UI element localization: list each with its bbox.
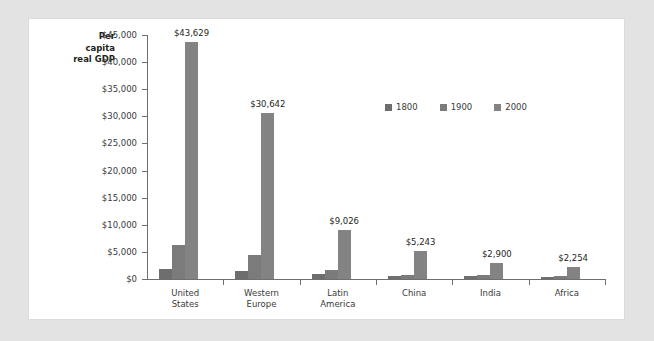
legend-swatch-1900	[440, 104, 447, 111]
x-tick-mark	[223, 279, 224, 285]
bar-group: $9,026LatinAmerica	[300, 35, 376, 279]
y-tick-label: $5,000	[75, 247, 137, 257]
bar-1800[interactable]	[464, 276, 477, 279]
y-tick-label: $45,000	[75, 30, 137, 40]
bar-1800[interactable]	[159, 269, 172, 279]
y-tick-label: $10,000	[75, 220, 137, 230]
y-tick-label: $0	[75, 274, 137, 284]
bar-1900[interactable]	[325, 270, 338, 279]
bar-value-label: $43,629	[174, 28, 209, 38]
x-tick-mark	[300, 279, 301, 285]
bar-1900[interactable]	[401, 275, 414, 279]
bar-value-label: $2,900	[482, 249, 512, 259]
bar-2000[interactable]	[261, 113, 274, 279]
y-tick-label: $20,000	[75, 166, 137, 176]
bar-1800[interactable]	[541, 277, 554, 279]
bar-group: $2,254Africa	[529, 35, 605, 279]
bar-group: $5,243China	[376, 35, 452, 279]
y-tick-label: $30,000	[75, 111, 137, 121]
legend-label-1900: 1900	[451, 102, 473, 112]
legend-label-2000: 2000	[505, 102, 527, 112]
bar-group: $30,642WesternEurope	[223, 35, 299, 279]
x-axis-category-label: Africa	[519, 288, 615, 299]
chart-panel: Per capita real GDP $45,000$40,000$35,00…	[28, 18, 625, 320]
bar-2000[interactable]	[567, 267, 580, 279]
x-axis-category-line: Africa	[519, 288, 615, 299]
bar-1900[interactable]	[554, 276, 567, 279]
x-tick-mark	[529, 279, 530, 285]
bar-value-label: $9,026	[329, 216, 359, 226]
x-tick-mark	[376, 279, 377, 285]
bar-1800[interactable]	[235, 271, 248, 279]
legend-item-2000[interactable]: 2000	[494, 102, 527, 112]
legend-item-1800[interactable]: 1800	[385, 102, 418, 112]
y-tick-label: $40,000	[75, 57, 137, 67]
bar-1900[interactable]	[248, 255, 261, 279]
y-tick-label: $15,000	[75, 193, 137, 203]
legend-item-1900[interactable]: 1900	[440, 102, 473, 112]
bar-1900[interactable]	[172, 245, 185, 279]
x-axis-category-line: America	[290, 299, 386, 310]
plot-area: $45,000$40,000$35,000$30,000$25,000$20,0…	[147, 35, 605, 279]
y-tick-mark	[142, 279, 147, 280]
bar-value-label: $30,642	[250, 99, 285, 109]
legend-label-1800: 1800	[396, 102, 418, 112]
bar-value-label: $2,254	[558, 253, 588, 263]
x-tick-mark	[605, 279, 606, 285]
legend-swatch-1800	[385, 104, 392, 111]
legend-swatch-2000	[494, 104, 501, 111]
bar-group: $43,629UnitedStates	[147, 35, 223, 279]
bar-2000[interactable]	[185, 42, 198, 279]
bar-1800[interactable]	[312, 274, 325, 279]
bar-2000[interactable]	[338, 230, 351, 279]
bar-value-label: $5,243	[406, 237, 436, 247]
bar-2000[interactable]	[414, 251, 427, 279]
bar-group: $2,900India	[452, 35, 528, 279]
y-tick-label: $25,000	[75, 138, 137, 148]
bar-2000[interactable]	[490, 263, 503, 279]
x-tick-mark	[452, 279, 453, 285]
chart-legend: 1800 1900 2000	[385, 102, 527, 112]
y-tick-label: $35,000	[75, 84, 137, 94]
bar-1800[interactable]	[388, 276, 401, 279]
bar-1900[interactable]	[477, 275, 490, 279]
y-axis-title-line-2: capita	[47, 43, 115, 55]
